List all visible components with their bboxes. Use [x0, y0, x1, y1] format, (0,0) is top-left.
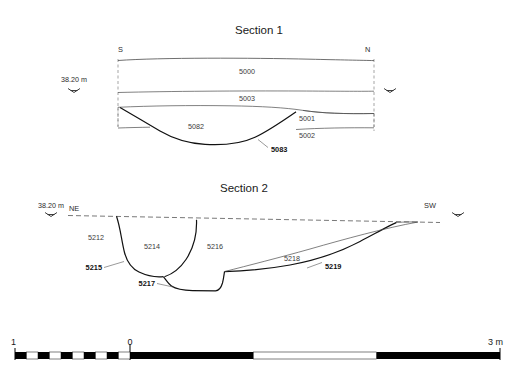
section-2-title: Section 2	[220, 182, 268, 194]
scale-bar-whole-metres	[130, 352, 500, 359]
section-2-label-5215: 5215	[86, 263, 102, 272]
section-1-left-orientation: S	[118, 45, 123, 54]
section-2-label-5216: 5216	[207, 242, 223, 251]
scale-bar-subdivided-metre	[15, 352, 130, 359]
section-1-label-5002: 5002	[299, 131, 315, 140]
section-2-label-5217: 5217	[139, 279, 155, 288]
section-1-label-5082: 5082	[188, 122, 204, 131]
section-2-label-5212: 5212	[88, 233, 104, 242]
section-2-datum-label: 38.20 m	[38, 201, 64, 210]
section-1-datum-label: 38.20 m	[61, 75, 87, 84]
section-1-label-5083: 5083	[271, 145, 287, 154]
section-2-label-5214: 5214	[144, 242, 160, 251]
section-drawing-figure: Section 1 S N 38.20 m 5000 5003 50	[0, 0, 519, 371]
section-2-left-orientation: NE	[69, 204, 79, 213]
section-1-right-orientation: N	[365, 45, 370, 54]
section-1-label-5003: 5003	[239, 94, 255, 103]
section-1-title: Section 1	[235, 24, 283, 36]
scale-bar-right-label: 3 m	[488, 337, 503, 347]
scale-bar-left-label: 1	[11, 337, 16, 347]
section-1-label-5000: 5000	[239, 67, 255, 76]
section-2-label-5218: 5218	[284, 254, 300, 263]
section-1-label-5001: 5001	[299, 114, 315, 123]
section-2-label-5219: 5219	[325, 262, 341, 271]
section-2-right-orientation: SW	[424, 201, 436, 210]
